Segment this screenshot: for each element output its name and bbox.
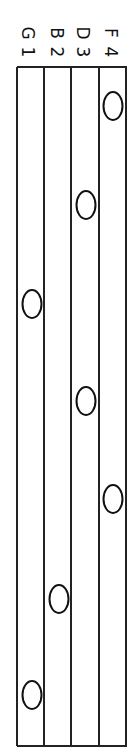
label-number-2: 2 [48,47,65,58]
note-b2 [49,584,70,614]
label-letter-g: G [19,26,36,39]
staff-line-5 [125,67,127,746]
staff-line-4 [98,67,100,746]
note-g1 [22,680,43,710]
staff-bottom-border [17,745,127,747]
label-number-1: 1 [19,47,36,58]
label-letter-f: F [102,28,119,38]
note-f4 [103,91,124,121]
note-d3 [76,386,97,416]
staff-line-3 [70,67,72,746]
label-number-3: 3 [74,47,91,58]
staff-line-1 [16,67,18,746]
label-letter-b: B [48,27,65,39]
staff-line-2 [43,67,45,746]
note-d3 [76,190,97,220]
label-number-4: 4 [102,47,119,58]
note-g1 [22,289,43,319]
staff-top-border [17,66,127,68]
label-letter-d: D [74,26,91,39]
note-f4 [103,484,124,514]
